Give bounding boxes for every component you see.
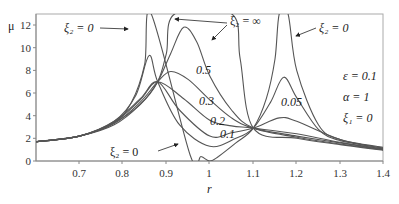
curve-label-0.5: 0.5 (196, 63, 211, 77)
y-axis-ticks: 0 2 4 6 8 10 12 (20, 19, 36, 167)
y-tick-8: 8 (26, 64, 32, 76)
curve-label-0.1: 0.1 (220, 127, 235, 141)
param-alpha: α = 1 (343, 90, 369, 104)
arrow-icon (296, 28, 316, 36)
chart: 0 2 4 6 8 10 12 0.7 0.8 0.9 1 1.1 1.2 1.… (0, 0, 399, 204)
label-xi2-zero-bottom: ξ₂ = 0 (110, 145, 138, 159)
param-epsilon: ε = 0.1 (343, 69, 377, 83)
x-tick-1.2: 1.2 (289, 167, 303, 179)
x-tick-0.7: 0.7 (72, 167, 86, 179)
curve-label-0.05: 0.05 (281, 95, 302, 109)
x-tick-0.9: 0.9 (159, 167, 173, 179)
y-tick-10: 10 (20, 42, 32, 54)
curve-label-0.2: 0.2 (210, 114, 225, 128)
label-xi2-inf: ξ₂ = ∞ (230, 14, 261, 28)
arrow-icon (212, 25, 227, 40)
y-tick-12: 12 (20, 19, 31, 31)
plot-frame (36, 14, 383, 161)
y-tick-4: 4 (26, 110, 32, 122)
x-tick-0.8: 0.8 (115, 167, 129, 179)
label-xi2-zero-left: ξ₂ = 0 (64, 21, 93, 35)
x-tick-1: 1 (206, 167, 212, 179)
arrow-icon (158, 144, 178, 151)
curve-label-0.3: 0.3 (199, 94, 214, 108)
param-xi1: ξ₁ = 0 (343, 111, 372, 125)
arrow-icon (100, 28, 128, 29)
y-tick-2: 2 (26, 132, 32, 144)
y-axis-label: μ (8, 19, 14, 33)
x-axis-label: r (207, 182, 212, 196)
arrow-icon (175, 19, 227, 23)
y-tick-6: 6 (26, 87, 32, 99)
x-axis-ticks: 0.7 0.8 0.9 1 1.1 1.2 1.3 1.4 (72, 161, 390, 179)
x-tick-1.4: 1.4 (376, 167, 390, 179)
x-tick-1.3: 1.3 (333, 167, 347, 179)
label-xi2-zero-right: ξ₂ = 0 (319, 21, 348, 35)
curve--2-0.5 (36, 27, 384, 150)
y-tick-0: 0 (26, 155, 32, 167)
x-tick-1.1: 1.1 (246, 167, 260, 179)
